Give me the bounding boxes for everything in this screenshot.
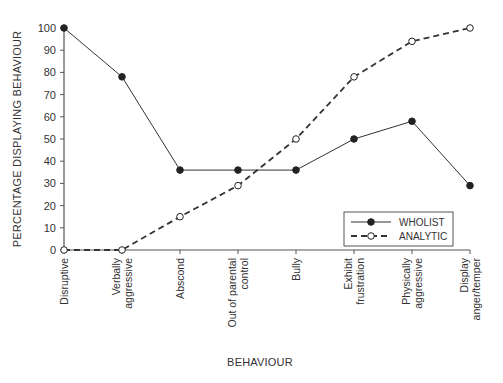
legend-label: WHOLIST	[399, 217, 445, 228]
y-tick-label: 40	[44, 155, 56, 167]
y-tick-label: 60	[44, 111, 56, 123]
legend-label: ANALYTIC	[399, 231, 447, 242]
svg-text:anger/temper: anger/temper	[470, 257, 482, 320]
x-axis-title: BEHAVIOUR	[227, 356, 293, 368]
y-tick-label: 80	[44, 66, 56, 78]
open-circle-marker	[368, 233, 375, 240]
x-category-label: Verballyaggressive	[110, 257, 134, 309]
filled-circle-marker	[409, 118, 416, 125]
y-tick-label: 90	[44, 44, 56, 56]
filled-circle-marker	[351, 136, 358, 143]
x-category-label: Disruptive	[58, 258, 70, 305]
open-circle-marker	[351, 74, 358, 81]
x-category-label: Abscond	[174, 258, 186, 299]
svg-text:Disruptive: Disruptive	[58, 258, 70, 305]
open-circle-marker	[467, 25, 474, 32]
svg-text:Bully: Bully	[290, 257, 302, 281]
y-tick-label: 0	[50, 244, 56, 256]
filled-circle-marker	[119, 74, 126, 81]
y-axis: 0102030405060708090100	[38, 22, 64, 256]
y-tick-label: 50	[44, 133, 56, 145]
svg-text:Display: Display	[458, 257, 470, 292]
open-circle-marker	[235, 182, 242, 189]
svg-text:control: control	[238, 258, 250, 290]
svg-text:Out of parental: Out of parental	[226, 258, 238, 327]
y-axis-title: PERCENTAGE DISPLAYING BEHAVIOUR	[11, 31, 23, 247]
svg-text:aggressive: aggressive	[122, 258, 134, 309]
legend: WHOLISTANALYTIC	[344, 212, 453, 246]
open-circle-marker	[119, 247, 126, 254]
y-tick-label: 30	[44, 177, 56, 189]
line-chart: 0102030405060708090100 DisruptiveVerball…	[0, 0, 503, 383]
open-circle-marker	[177, 213, 184, 220]
x-category-label: Displayanger/temper	[458, 257, 482, 320]
series-wholist	[61, 25, 474, 189]
filled-circle-marker	[235, 167, 242, 174]
x-category-label: Physicallyaggressive	[400, 257, 424, 309]
y-tick-label: 100	[38, 22, 56, 34]
svg-text:Physically: Physically	[400, 257, 412, 304]
svg-text:frustration: frustration	[354, 258, 366, 305]
open-circle-marker	[61, 247, 68, 254]
y-tick-label: 10	[44, 222, 56, 234]
filled-circle-marker	[61, 25, 68, 32]
svg-text:Exhibit: Exhibit	[342, 258, 354, 290]
svg-text:Abscond: Abscond	[174, 258, 186, 299]
filled-circle-marker	[467, 182, 474, 189]
series-line	[64, 28, 470, 186]
filled-circle-marker	[177, 167, 184, 174]
open-circle-marker	[293, 136, 300, 143]
filled-circle-marker	[368, 219, 375, 226]
x-category-label: Out of parentalcontrol	[226, 258, 250, 327]
x-axis: DisruptiveVerballyaggressiveAbscondOut o…	[58, 250, 482, 327]
open-circle-marker	[409, 38, 416, 45]
svg-text:aggressive: aggressive	[412, 258, 424, 309]
x-category-label: Exhibitfrustration	[342, 258, 366, 305]
filled-circle-marker	[293, 167, 300, 174]
y-tick-label: 70	[44, 89, 56, 101]
y-tick-label: 20	[44, 200, 56, 212]
x-category-label: Bully	[290, 257, 302, 281]
svg-text:Verbally: Verbally	[110, 257, 122, 295]
